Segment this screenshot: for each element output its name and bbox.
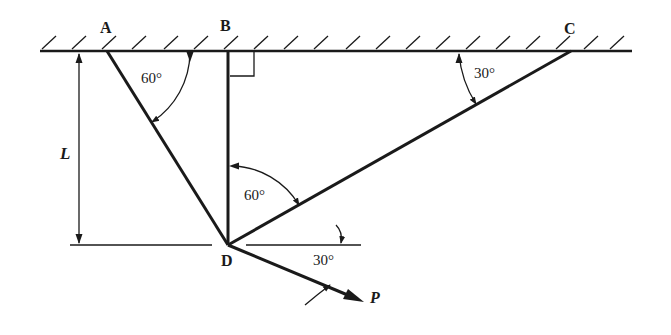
load-P-arrowhead — [343, 289, 364, 302]
member-CD — [228, 51, 571, 245]
right-angle-marker — [230, 51, 254, 76]
ceiling-support — [40, 36, 632, 51]
member-AD — [107, 51, 228, 245]
label-B: B — [220, 17, 231, 34]
label-C: C — [564, 20, 576, 37]
angle-arc-C-start-arrow — [456, 53, 463, 63]
label-angle-C: 30° — [474, 65, 495, 81]
label-A: A — [100, 19, 112, 36]
angle-arc-BD-CD-start-arrow — [229, 163, 239, 170]
angle-arc-P-bottom — [305, 285, 330, 305]
label-angle-BD-CD: 60° — [244, 187, 265, 203]
angle-arc-AD-start-arrow — [187, 52, 194, 62]
label-angle-P: 30° — [313, 252, 334, 268]
label-D: D — [221, 252, 233, 269]
angle-arc-AD — [152, 53, 190, 122]
angle-arc-BD-CD — [232, 166, 299, 205]
truss-diagram: A B C D L P 60° 30° 60° 30° — [0, 0, 671, 335]
label-L: L — [59, 144, 70, 163]
angle-arc-P-top — [336, 225, 341, 243]
dimension-L — [76, 53, 83, 244]
label-angle-AD: 60° — [141, 70, 162, 86]
label-P: P — [369, 289, 380, 306]
